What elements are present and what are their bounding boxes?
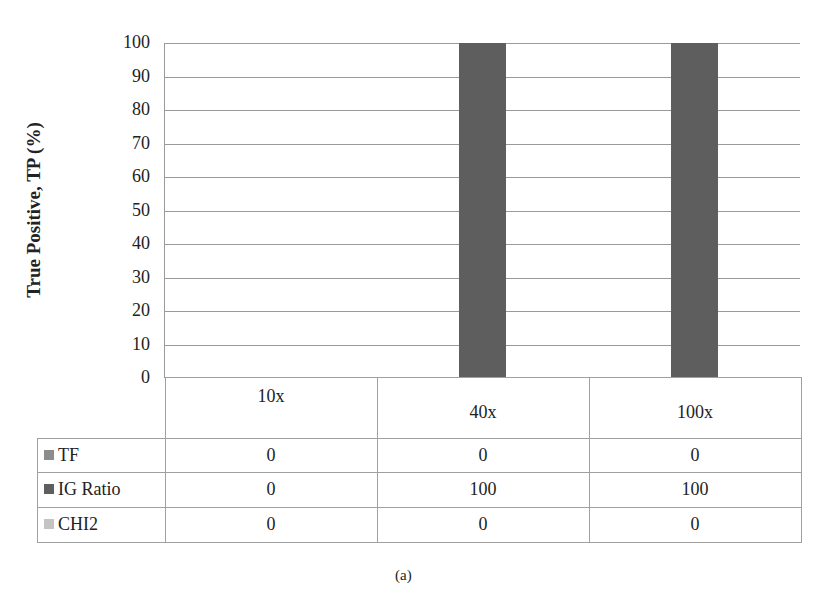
y-tick-label: 70 — [110, 134, 150, 152]
category-40x: 40x — [377, 378, 589, 439]
bar — [671, 43, 718, 378]
table-cell: 0 — [165, 438, 377, 472]
table-cell: 0 — [165, 472, 377, 507]
legend-ig-ratio: IG Ratio — [38, 472, 166, 507]
legend-swatch-icon — [44, 450, 54, 460]
category-10x: 10x — [165, 378, 377, 439]
table-cell: 0 — [377, 438, 589, 472]
legend-chi2: CHI2 — [38, 507, 166, 542]
y-tick-label: 80 — [110, 100, 150, 118]
y-tick-label: 10 — [110, 335, 150, 353]
y-tick-label: 30 — [110, 268, 150, 286]
table-cell: 100 — [377, 472, 589, 507]
table-cell: 100 — [589, 472, 801, 507]
legend-swatch-icon — [44, 484, 54, 494]
table-cell: 0 — [165, 507, 377, 542]
category-100x: 100x — [589, 378, 801, 439]
y-tick-label: 100 — [110, 33, 150, 51]
table-row-tf: TF 0 0 0 — [38, 438, 802, 472]
table-row-ig-ratio: IG Ratio 0 100 100 — [38, 472, 802, 507]
table-cell: 0 — [589, 507, 801, 542]
y-tick-label: 40 — [110, 234, 150, 252]
y-axis-label: True Positive, TP (%) — [23, 60, 53, 360]
y-tick-label: 90 — [110, 67, 150, 85]
y-tick-label: 20 — [110, 301, 150, 319]
table-row-chi2: CHI2 0 0 0 — [38, 507, 802, 542]
category-row: 10x 40x 100x — [38, 378, 802, 439]
y-tick-label: 50 — [110, 201, 150, 219]
y-axis-line — [164, 43, 165, 378]
y-tick-label: 60 — [110, 167, 150, 185]
legend-swatch-icon — [44, 519, 54, 529]
table-cell: 0 — [589, 438, 801, 472]
data-table: 10x 40x 100x TF 0 0 0 IG Ratio 0 100 100… — [37, 377, 802, 543]
figure-caption: (a) — [395, 567, 412, 584]
bar — [459, 43, 506, 378]
table-cell: 0 — [377, 507, 589, 542]
legend-tf: TF — [38, 438, 166, 472]
